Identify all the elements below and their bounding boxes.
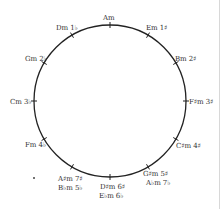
key-label-bm: Bm 2♯ — [175, 55, 196, 63]
key-label-dsharpm: D♯m 6♯ — [100, 183, 125, 191]
key-label-aflatm: A♭m 7♭ — [146, 179, 170, 187]
key-label-dm: Dm 1♭ — [56, 24, 78, 32]
key-label-gsharpm: G♯m 5♯ — [143, 170, 168, 178]
key-label-em: Em 1♯ — [146, 24, 167, 32]
key-label-fsharpm: F♯m 3♯ — [189, 98, 213, 106]
key-label-am: Am — [103, 14, 115, 22]
circle-ring — [34, 25, 186, 177]
key-label-bflatm: B♭m 5♭ — [58, 184, 82, 192]
key-label-fm: Fm 4♭ — [25, 141, 46, 149]
key-label-cm: Cm 3♭ — [10, 98, 31, 106]
key-label-csharpm: C♯m 4♯ — [176, 142, 201, 150]
key-label-eflatm: E♭m 6♭ — [99, 192, 123, 200]
key-label-gm: Gm 2♭ — [25, 55, 47, 63]
key-label-asharpm: A♯m 7♯ — [58, 175, 83, 183]
